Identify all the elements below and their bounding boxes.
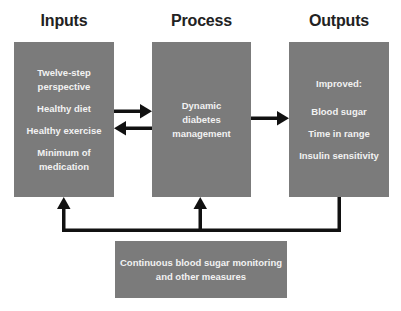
arrow-process-to-inputs-icon (114, 121, 152, 136)
arrow-inputs-to-process-icon (114, 104, 152, 119)
arrow-process-to-outputs-icon (251, 111, 289, 126)
feedback-loop-icon (57, 197, 341, 232)
connector-arrows (0, 0, 401, 311)
